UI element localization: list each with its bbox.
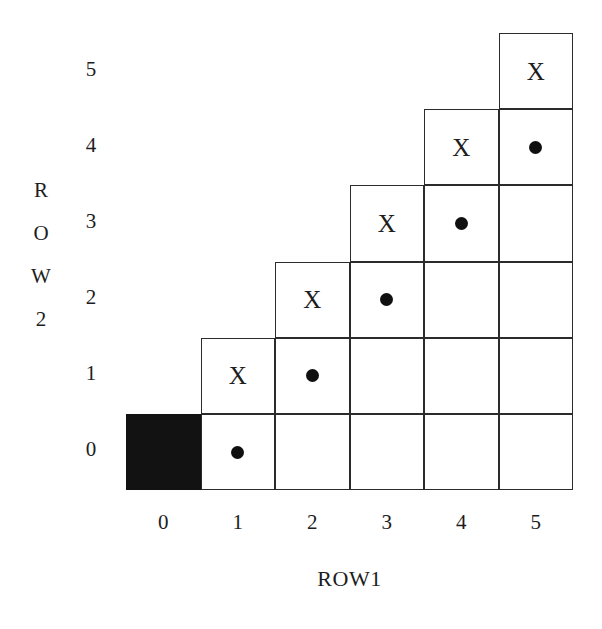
grid-cell-1-1[interactable]: X xyxy=(201,338,276,414)
y-tick-0: 0 xyxy=(74,439,108,460)
y-tick-3: 3 xyxy=(74,211,108,232)
grid-cell-4-3[interactable] xyxy=(424,185,499,261)
x-tick-1: 1 xyxy=(201,512,276,533)
grid-cell-0-0[interactable] xyxy=(126,414,201,490)
y-tick-4: 4 xyxy=(74,135,108,156)
cross-marker: X xyxy=(351,186,424,260)
x-axis-tick-labels: 0 1 2 3 4 5 xyxy=(126,512,573,542)
cross-marker: X xyxy=(276,263,349,337)
x-tick-4: 4 xyxy=(424,512,499,533)
grid-cell-3-1[interactable] xyxy=(350,338,425,414)
y-axis-title-letter-3: 2 xyxy=(36,309,47,330)
x-tick-0: 0 xyxy=(126,512,201,533)
y-tick-1: 1 xyxy=(74,363,108,384)
x-tick-2: 2 xyxy=(275,512,350,533)
y-axis-title-letter-2: W xyxy=(31,266,51,287)
grid-cell-4-4[interactable]: X xyxy=(424,109,499,185)
cross-marker: X xyxy=(425,110,498,184)
grid-cell-3-2[interactable] xyxy=(350,262,425,338)
grid-cell-5-3[interactable] xyxy=(499,185,574,261)
dot-marker xyxy=(380,293,393,306)
grid-cell-4-2[interactable] xyxy=(424,262,499,338)
dot-marker xyxy=(455,217,468,230)
grid-cell-4-0[interactable] xyxy=(424,414,499,490)
x-tick-5: 5 xyxy=(499,512,574,533)
grid-cell-5-4[interactable] xyxy=(499,109,574,185)
figure-canvas: R O W 2 5 4 3 2 1 0 XXXXX 0 1 2 3 4 5 RO… xyxy=(0,0,602,629)
staircase-grid: XXXXX xyxy=(126,33,573,490)
grid-cell-5-1[interactable] xyxy=(499,338,574,414)
cross-marker: X xyxy=(500,34,573,108)
x-axis-title: ROW1 xyxy=(126,568,573,590)
y-axis-title-letter-0: R xyxy=(34,180,48,201)
grid-cell-4-1[interactable] xyxy=(424,338,499,414)
cross-marker: X xyxy=(202,339,275,413)
x-tick-3: 3 xyxy=(350,512,425,533)
y-axis-tick-labels: 5 4 3 2 1 0 xyxy=(52,33,108,490)
grid-cell-3-0[interactable] xyxy=(350,414,425,490)
grid-cell-2-2[interactable]: X xyxy=(275,262,350,338)
grid-cell-5-5[interactable]: X xyxy=(499,33,574,109)
dot-marker xyxy=(306,369,319,382)
y-axis-title-letter-1: O xyxy=(33,223,48,244)
y-tick-2: 2 xyxy=(74,287,108,308)
dot-marker xyxy=(231,446,244,459)
grid-cell-2-1[interactable] xyxy=(275,338,350,414)
grid-cell-2-0[interactable] xyxy=(275,414,350,490)
grid-cell-5-0[interactable] xyxy=(499,414,574,490)
grid-cell-5-2[interactable] xyxy=(499,262,574,338)
y-tick-5: 5 xyxy=(74,59,108,80)
dot-marker xyxy=(529,141,542,154)
grid-cell-1-0[interactable] xyxy=(201,414,276,490)
grid-cell-3-3[interactable]: X xyxy=(350,185,425,261)
